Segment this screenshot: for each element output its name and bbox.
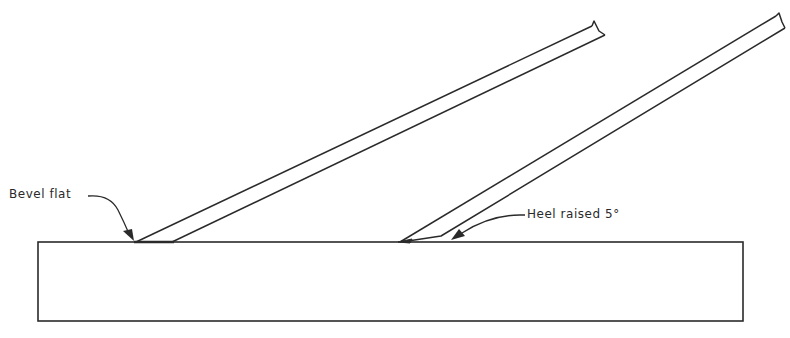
- leader-arrow-bevel-flat: [88, 196, 134, 241]
- work-block: [38, 242, 743, 321]
- label-bevel-flat: Bevel flat: [9, 186, 71, 201]
- diagram-drawing: [0, 0, 790, 338]
- diagram-canvas: Bevel flat Heel raised 5°: [0, 0, 790, 338]
- leader-arrow-heel-raised: [451, 215, 525, 240]
- label-heel-raised: Heel raised 5°: [527, 206, 620, 221]
